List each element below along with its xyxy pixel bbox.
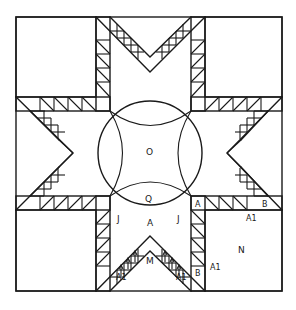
corner-square-top-right bbox=[205, 17, 282, 97]
label-j-left: J bbox=[116, 214, 120, 224]
label-m: M bbox=[146, 256, 154, 266]
label-b-strip-right: B bbox=[262, 200, 268, 209]
label-a1-bottom-right: A1 bbox=[176, 273, 187, 282]
corner-square-top-left bbox=[16, 17, 96, 97]
label-a1-vertical: A1 bbox=[210, 263, 221, 272]
label-b-vertical: B bbox=[195, 269, 201, 278]
corner-square-bottom-left bbox=[16, 210, 96, 291]
label-a1-strip-right: A1 bbox=[246, 214, 257, 223]
quilt-block-diagram: O Q J J A M N A B A1 B A1 A1 A1 bbox=[0, 0, 296, 310]
label-a-apex: A bbox=[147, 218, 154, 228]
label-n: N bbox=[238, 245, 245, 255]
label-q: Q bbox=[145, 194, 152, 204]
label-a1-bottom-left: A1 bbox=[116, 273, 127, 282]
label-j-right: J bbox=[176, 214, 180, 224]
label-o: O bbox=[146, 147, 153, 157]
label-a-strip-right: A bbox=[195, 200, 201, 209]
